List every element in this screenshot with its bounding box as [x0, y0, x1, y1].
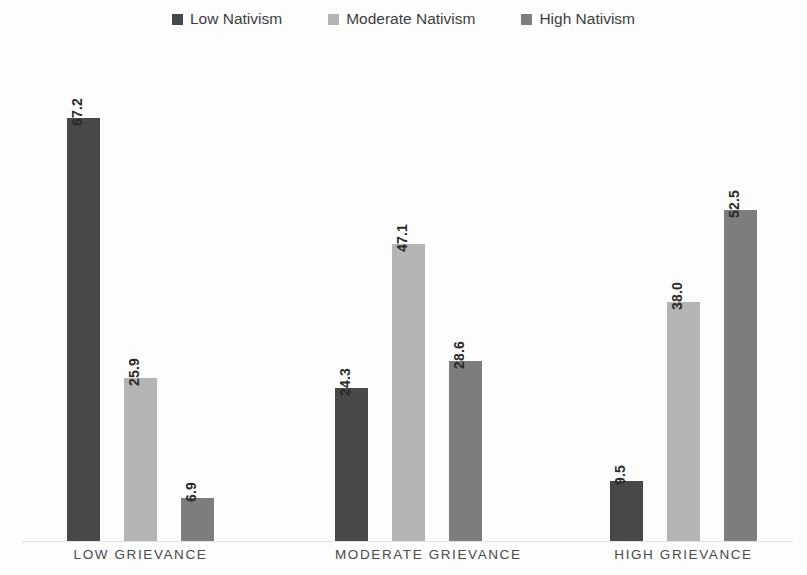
category-label-low-grievance: LOW GRIEVANCE	[67, 548, 214, 562]
bar-group: 24.347.128.6	[335, 39, 482, 541]
bar-value-label: 6.9	[184, 482, 198, 502]
category-axis: LOW GRIEVANCE MODERATE GRIEVANCE HIGH GR…	[0, 548, 807, 572]
bar-value-label: 67.2	[70, 98, 84, 126]
bar-value-label: 38.0	[670, 282, 684, 310]
bar[interactable]: 9.5	[610, 481, 643, 541]
bar[interactable]: 52.5	[724, 210, 757, 541]
bar[interactable]: 6.9	[181, 498, 214, 541]
bar[interactable]: 47.1	[392, 244, 425, 541]
bar[interactable]: 67.2	[67, 118, 100, 541]
bar-group: 9.538.052.5	[610, 39, 757, 541]
legend-item-high-nativism: High Nativism	[521, 11, 635, 27]
chart-legend: Low Nativism Moderate Nativism High Nati…	[0, 6, 807, 32]
legend-item-label: Low Nativism	[190, 11, 282, 27]
bar-value-label: 47.1	[395, 224, 409, 252]
legend-swatch-icon	[328, 14, 339, 25]
legend-item-label: High Nativism	[539, 11, 635, 27]
bar-value-label: 9.5	[613, 465, 627, 485]
bar-value-label: 25.9	[127, 358, 141, 386]
legend-swatch-icon	[521, 14, 532, 25]
legend-item-moderate-nativism: Moderate Nativism	[328, 11, 475, 27]
bar-value-label: 28.6	[452, 341, 466, 369]
axis-baseline	[22, 541, 793, 542]
legend-swatch-icon	[172, 14, 183, 25]
bar-value-label: 52.5	[727, 190, 741, 218]
bar-value-label: 24.3	[338, 368, 352, 396]
category-label-high-grievance: HIGH GRIEVANCE	[610, 548, 757, 562]
legend-item-low-nativism: Low Nativism	[172, 11, 282, 27]
bar-chart: Low Nativism Moderate Nativism High Nati…	[0, 0, 807, 575]
bar[interactable]: 24.3	[335, 388, 368, 541]
bar[interactable]: 28.6	[449, 361, 482, 541]
bar[interactable]: 25.9	[124, 378, 157, 541]
bar[interactable]: 38.0	[667, 302, 700, 541]
bar-group: 67.225.96.9	[67, 39, 214, 541]
category-label-moderate-grievance: MODERATE GRIEVANCE	[335, 548, 482, 562]
legend-item-label: Moderate Nativism	[346, 11, 475, 27]
plot-area: 67.225.96.924.347.128.69.538.052.5	[0, 40, 807, 542]
